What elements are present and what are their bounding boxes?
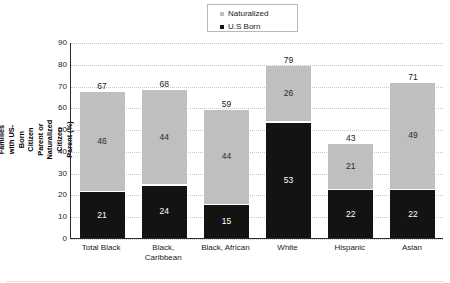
y-axis-title: Share of Children (0-10) in Immigrant Fa… [0, 28, 34, 252]
y-tick-label-70: 70 [49, 83, 67, 91]
y-tick-label-20: 20 [49, 191, 67, 199]
bar-segment-naturalized[interactable]: 44 [142, 90, 187, 184]
bar-total-label: 67 [80, 82, 125, 91]
legend-swatch-us-born [220, 25, 224, 29]
bar-segment-us-born[interactable]: 22 [328, 190, 373, 238]
y-tick-label-40: 40 [49, 148, 67, 156]
bar-segment-value-us-born: 53 [284, 176, 293, 185]
legend-swatch-naturalized [220, 12, 224, 16]
bar-total-label: 71 [390, 73, 435, 82]
bar-stack[interactable]: 2249 [390, 83, 435, 238]
bar-segment-naturalized[interactable]: 21 [328, 144, 373, 188]
y-tick-label-90: 90 [49, 39, 67, 47]
bar-stack[interactable]: 2221 [328, 144, 373, 238]
bar-stack[interactable]: 2146 [80, 92, 125, 238]
bar-segment-us-born[interactable]: 22 [390, 190, 435, 238]
legend-item-us-born[interactable]: U.S Born [220, 21, 297, 32]
bar-segment-value-us-born: 21 [97, 211, 106, 220]
bar-total-label: 43 [328, 134, 373, 143]
bar-segment-us-born[interactable]: 15 [204, 205, 249, 238]
bar-segment-us-born[interactable]: 21 [80, 192, 125, 238]
y-axis-title-line-1: Share of Children (0-10) in Immigrant Fa… [0, 122, 7, 158]
x-tick-label: White [257, 243, 319, 253]
bar-segment-naturalized[interactable]: 44 [204, 110, 249, 204]
bar-total-label: 79 [266, 56, 311, 65]
bar-total-label: 68 [142, 80, 187, 89]
stacked-bar-chart: Naturalized U.S Born Share of Children (… [0, 0, 450, 283]
y-tick-label-80: 80 [49, 61, 67, 69]
legend-label-us-born: U.S Born [228, 22, 260, 31]
y-tick-label-50: 50 [49, 126, 67, 134]
bar-stack[interactable]: 5326 [266, 66, 311, 238]
bar-segment-value-naturalized: 46 [97, 137, 106, 146]
bottom-divider [6, 281, 444, 282]
gridline-0 [71, 239, 443, 240]
bar-segment-naturalized[interactable]: 26 [266, 66, 311, 121]
bar-segment-value-naturalized: 26 [284, 89, 293, 98]
plot-area: 9080706050403020100 21466724446815445953… [70, 43, 443, 239]
bar-segment-value-naturalized: 21 [346, 162, 355, 171]
x-tick-label: Black,Caribbean [132, 243, 194, 263]
bar-segment-us-born[interactable]: 53 [266, 123, 311, 238]
chart-legend: Naturalized U.S Born [207, 4, 298, 32]
legend-item-naturalized[interactable]: Naturalized [220, 8, 297, 19]
bar-segment-naturalized[interactable]: 46 [80, 92, 125, 191]
y-tick-label-30: 30 [49, 170, 67, 178]
bar-series-group: 214667244468154459532679222143224971 [71, 43, 443, 238]
bar-total-label: 59 [204, 100, 249, 109]
bar-segment-value-naturalized: 44 [160, 133, 169, 142]
x-tick-label: Black, African [194, 243, 256, 253]
bar-segment-us-born[interactable]: 24 [142, 186, 187, 238]
x-tick-label: Total Black [70, 243, 132, 253]
x-tick-label: Asian [381, 243, 443, 253]
y-tick-label-10: 10 [49, 213, 67, 221]
y-tick-label-0: 0 [49, 235, 67, 243]
y-axis-title-line-2: with US-Born Citizen Parent or Naturaliz… [7, 120, 54, 160]
bar-stack[interactable]: 1544 [204, 110, 249, 238]
legend-label-naturalized: Naturalized [228, 9, 268, 18]
bar-segment-value-us-born: 24 [160, 207, 169, 216]
bar-segment-value-naturalized: 44 [222, 152, 231, 161]
bar-segment-value-us-born: 15 [222, 217, 231, 226]
bar-segment-value-naturalized: 49 [408, 131, 417, 140]
x-tick-label: Hispanic [319, 243, 381, 253]
bar-segment-naturalized[interactable]: 49 [390, 83, 435, 188]
x-axis-tick-labels: Total BlackBlack,CaribbeanBlack, African… [70, 243, 443, 271]
bar-stack[interactable]: 2444 [142, 90, 187, 238]
bar-segment-value-us-born: 22 [346, 210, 355, 219]
bar-segment-value-us-born: 22 [408, 210, 417, 219]
y-tick-label-60: 60 [49, 104, 67, 112]
